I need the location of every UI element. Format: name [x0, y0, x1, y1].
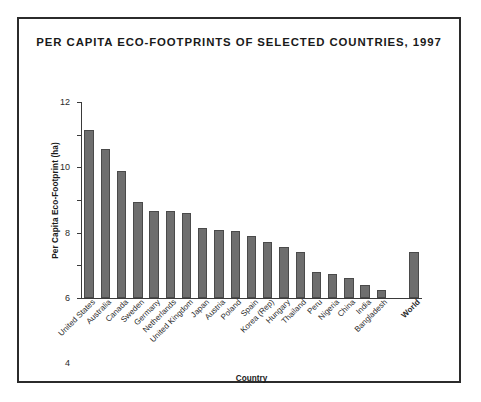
x-axis-tick-labels: United StatesAustraliaCanadaSwedenGerman…	[81, 299, 471, 379]
chart-title: PER CAPITA ECO-FOOTPRINTS OF SELECTED CO…	[19, 36, 459, 48]
y-axis-title: Per Capita Eco-Footprint (ha)	[48, 102, 62, 298]
x-axis-title: Country	[81, 374, 422, 383]
y-axis-tick-label: 4	[65, 358, 70, 368]
y-axis-tick-label: 10	[60, 162, 70, 172]
bar	[101, 149, 110, 298]
x-axis-tick-label-text: World	[400, 298, 422, 320]
y-axis-tick-label: 8	[65, 228, 70, 238]
y-axis-title-text: Per Capita Eco-Footprint (ha)	[51, 142, 60, 259]
chart-frame: PER CAPITA ECO-FOOTPRINTS OF SELECTED CO…	[17, 17, 461, 383]
y-axis-tick-label: 12	[60, 97, 70, 107]
y-axis-tick-label: 6	[65, 293, 70, 303]
bars-group	[81, 102, 422, 298]
bar	[84, 130, 93, 298]
